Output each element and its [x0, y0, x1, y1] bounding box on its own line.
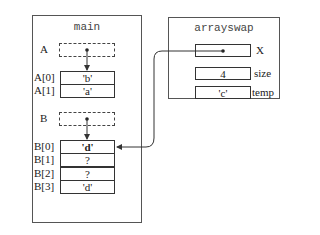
pointer-a-box: [59, 43, 115, 57]
main-frame-title: main: [32, 21, 142, 33]
array-b-label-2: B[2]: [34, 167, 54, 180]
array-b-cell-0: 'd': [60, 140, 115, 154]
arrayswap-var-x-label: X: [256, 44, 264, 57]
array-b-label-3: B[3]: [34, 180, 54, 193]
pointer-b-box: [59, 112, 115, 126]
array-a-label-0: A[0]: [34, 71, 55, 84]
array-b-cell-3: 'd': [60, 180, 115, 194]
arrayswap-var-temp-label: temp: [252, 86, 274, 99]
array-a-label-1: A[1]: [34, 84, 55, 97]
arrayswap-var-size-box: 4: [195, 67, 251, 80]
arrayswap-frame-title: arrayswap: [168, 22, 280, 34]
array-b-label-1: B[1]: [34, 153, 54, 166]
array-b-cell-2: ?: [60, 167, 115, 181]
array-b-label-0: B[0]: [34, 140, 54, 153]
array-a-cell-1: 'a': [60, 84, 115, 98]
array-a-cell-0: 'b': [60, 71, 115, 85]
arrayswap-var-temp-box: 'c': [195, 86, 251, 99]
arrayswap-var-size-label: size: [254, 67, 271, 80]
pointer-b-label: B: [40, 112, 47, 125]
arrayswap-var-x-box: [195, 44, 251, 57]
pointer-a-label: A: [40, 43, 48, 56]
array-b-cell-1: ?: [60, 153, 115, 167]
